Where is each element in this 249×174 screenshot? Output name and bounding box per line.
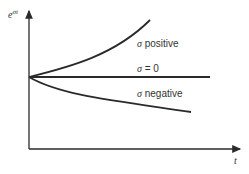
- label-sigma-positive: σ positive: [137, 38, 179, 49]
- label-sigma-zero: σ = 0: [137, 63, 159, 74]
- y-axis-label: eσt: [8, 8, 18, 20]
- y-axis-label-exponent: σt: [12, 8, 17, 16]
- exponential-diagram: [0, 0, 249, 174]
- curve-sigma-positive: [29, 20, 150, 77]
- label-text: = 0: [142, 63, 159, 74]
- label-text: negative: [142, 88, 183, 99]
- label-text: positive: [142, 38, 179, 49]
- label-sigma-negative: σ negative: [137, 88, 183, 99]
- x-axis-label: t: [234, 155, 237, 166]
